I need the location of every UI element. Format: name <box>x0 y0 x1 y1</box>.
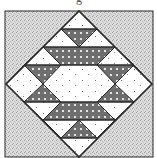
quilt-block-diagram <box>0 0 157 158</box>
